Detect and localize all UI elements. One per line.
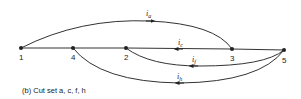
node-label-5: 5	[282, 56, 287, 65]
figure-caption: (b) Cut set a, c, f, h	[22, 86, 86, 95]
node-1	[19, 46, 23, 50]
current-label-a: ia	[146, 9, 151, 19]
tree-diagram: 1 4 2 3 5 ia ic if ih	[0, 0, 301, 99]
node-2	[124, 46, 128, 50]
current-label-f: if	[192, 55, 197, 65]
node-5	[282, 48, 286, 52]
branch-f	[126, 48, 284, 66]
node-3	[230, 47, 234, 51]
node-4	[71, 46, 75, 50]
node-label-1: 1	[19, 53, 24, 62]
branch-a	[21, 21, 232, 49]
node-label-4: 4	[71, 53, 76, 62]
main-line	[21, 48, 284, 50]
node-label-2: 2	[124, 53, 129, 62]
current-label-c: ic	[178, 38, 183, 48]
current-label-h: ih	[177, 72, 182, 82]
node-label-3: 3	[230, 54, 235, 63]
